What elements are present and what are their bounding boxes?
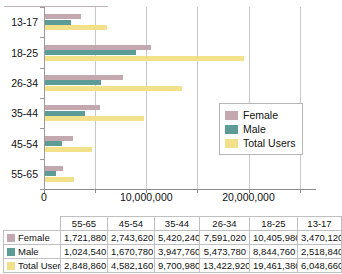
gridline	[146, 7, 147, 189]
bar-male-18-25	[45, 50, 136, 55]
legend-item-total-users: Total Users	[225, 136, 298, 150]
table-row: Male1,024,5401,670,7803,947,7605,473,780…	[4, 245, 342, 259]
male-swatch-icon	[7, 248, 15, 256]
category-label-45-54: 45-54	[11, 139, 38, 149]
table-cell: 5,473,780	[200, 245, 250, 259]
table-row-label-text: Male	[18, 247, 39, 257]
bar-female-45-54	[45, 136, 73, 141]
legend-label-female: Female	[243, 110, 278, 121]
y-axis-tick	[40, 189, 44, 190]
table-cell: 5,420,240	[155, 231, 200, 245]
category-label-26-34: 26-34	[11, 78, 38, 88]
table-cell: 1,670,780	[108, 245, 155, 259]
y-axis-tick	[40, 98, 44, 99]
table-cell: 13,422,920	[200, 259, 250, 273]
bar-total-users-26-34	[45, 86, 182, 91]
table-row-label-total-users: Total Users	[4, 259, 61, 273]
table-col-header-45-54: 45-54	[108, 217, 155, 231]
table-cell: 3,470,120	[298, 231, 342, 245]
category-label-13-17: 13-17	[11, 17, 38, 27]
gridline	[95, 7, 96, 189]
legend-label-male: Male	[243, 124, 266, 135]
female-swatch-icon	[7, 234, 15, 242]
table-cell: 4,582,160	[108, 259, 155, 273]
chart-area: 13-1718-2526-3435-4445-5455-65 010,000,0…	[0, 0, 339, 214]
table-header-row: 55-6545-5435-4426-3418-2513-17	[4, 217, 342, 231]
table-cell: 8,844,760	[250, 245, 298, 259]
bar-total-users-55-65	[45, 177, 74, 182]
category-label-55-65: 55-65	[11, 169, 38, 179]
x-tick-label-1: 10,000,000	[120, 192, 173, 203]
y-axis-tick	[40, 159, 44, 160]
bar-male-55-65	[45, 171, 56, 176]
table-cell: 19,461,380	[250, 259, 298, 273]
plot-region: 13-1718-2526-3435-4445-5455-65 010,000,0…	[44, 7, 315, 189]
table-col-header-55-65: 55-65	[61, 217, 108, 231]
bar-total-users-18-25	[45, 56, 244, 61]
table-row-label-text: Total Users	[18, 261, 61, 271]
male-swatch-icon	[225, 125, 238, 134]
legend-item-male: Male	[225, 122, 298, 136]
table-cell: 2,848,860	[61, 259, 108, 273]
table-cell: 6,048,660	[298, 259, 342, 273]
y-axis-tick	[40, 68, 44, 69]
bar-female-55-65	[45, 166, 63, 171]
bar-female-35-44	[45, 105, 100, 110]
y-axis-tick	[40, 7, 44, 8]
bar-male-45-54	[45, 141, 62, 146]
table-cell: 1,024,540	[61, 245, 108, 259]
table-row: Total Users2,848,8604,582,1609,700,98013…	[4, 259, 342, 273]
x-axis-tick	[95, 189, 96, 193]
table-body: Female1,721,8802,743,6205,420,2407,591,0…	[4, 231, 342, 273]
y-axis-line	[44, 7, 45, 189]
x-tick-label-0: 0	[41, 192, 47, 203]
bar-male-13-17	[45, 20, 71, 25]
table-row-label-male: Male	[4, 245, 61, 259]
table-cell: 3,947,760	[155, 245, 200, 259]
table-cell: 9,700,980	[155, 259, 200, 273]
table-cell: 7,591,020	[200, 231, 250, 245]
legend-label-total-users: Total Users	[243, 138, 296, 149]
table-cell: 2,743,620	[108, 231, 155, 245]
female-swatch-icon	[225, 111, 238, 120]
total-users-swatch-icon	[7, 262, 15, 270]
bar-female-13-17	[45, 14, 81, 19]
table-cell: 10,405,980	[250, 231, 298, 245]
bar-total-users-45-54	[45, 147, 92, 152]
table-corner-cell	[4, 217, 61, 231]
table-col-header-13-17: 13-17	[298, 217, 342, 231]
bar-female-18-25	[45, 45, 151, 50]
total-users-swatch-icon	[225, 139, 238, 148]
table-row: Female1,721,8802,743,6205,420,2407,591,0…	[4, 231, 342, 245]
x-axis-tick	[300, 189, 301, 193]
x-tick-label-2: 20,000,000	[222, 192, 275, 203]
x-axis-tick	[197, 189, 198, 193]
chart-legend: Female Male Total Users	[219, 103, 303, 155]
table-row-label-text: Female	[18, 233, 50, 243]
table-col-header-35-44: 35-44	[155, 217, 200, 231]
category-label-18-25: 18-25	[11, 48, 38, 58]
table-cell: 2,518,840	[298, 245, 342, 259]
bar-total-users-13-17	[45, 25, 107, 30]
category-label-35-44: 35-44	[11, 108, 38, 118]
data-table: 55-6545-5435-4426-3418-2513-17 Female1,7…	[3, 216, 342, 273]
table-col-header-26-34: 26-34	[200, 217, 250, 231]
legend-item-female: Female	[225, 108, 298, 122]
y-axis-tick	[40, 37, 44, 38]
bar-male-35-44	[45, 111, 85, 116]
x-axis-line	[44, 189, 316, 190]
bar-total-users-35-44	[45, 116, 144, 121]
bar-female-26-34	[45, 75, 123, 80]
gridline	[197, 7, 198, 189]
gridline	[249, 7, 250, 189]
gridline	[300, 7, 301, 189]
table-col-header-18-25: 18-25	[250, 217, 298, 231]
table-cell: 1,721,880	[61, 231, 108, 245]
y-axis-tick	[40, 128, 44, 129]
data-table-region: 55-6545-5435-4426-3418-2513-17 Female1,7…	[3, 216, 336, 273]
bar-male-26-34	[45, 80, 101, 85]
table-row-label-female: Female	[4, 231, 61, 245]
